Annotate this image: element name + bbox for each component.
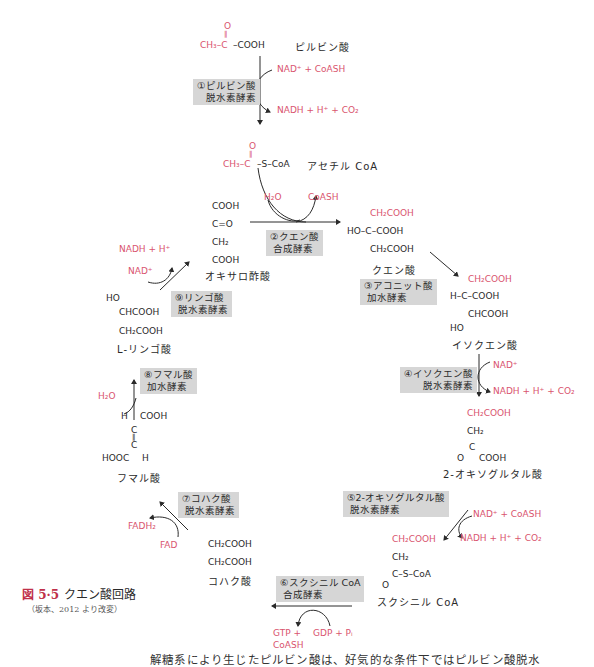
oxoglutarate-l3: C	[469, 442, 475, 453]
isocitrate-l1: CH₂COOH	[468, 274, 512, 285]
oxaloacetate-l2: C=O	[212, 219, 233, 230]
oxoglutarate-l5: COOH	[479, 453, 506, 464]
succinyl-coa-name: スクシニル CoA	[377, 594, 459, 609]
enzyme-4-line1: ④イソクエン酸	[404, 368, 473, 379]
pyruvate-black-part: –COOH	[233, 40, 265, 51]
acetyl-coa-name: アセチル CoA	[307, 158, 378, 173]
cofactor-s2-out: CoASH	[308, 192, 338, 203]
isocitrate-l2: H–C–COOH	[450, 291, 499, 302]
enzyme-9: ⑨リンゴ酸 脱水素酵素	[171, 291, 232, 317]
enzyme-1: ①ピルビン酸 脱水素酵素	[193, 79, 260, 105]
enzyme-5-line1: ⑤2-オキソグルタル酸	[347, 492, 445, 503]
enzyme-1-line2: 脱水素酵素	[206, 92, 256, 103]
enzyme-1-line1: ①ピルビン酸	[197, 80, 256, 91]
enzyme-2-line2: 合成酵素	[273, 243, 313, 254]
oxaloacetate-name: オキサロ酢酸	[205, 268, 271, 283]
enzyme-4-line2: 脱水素酵素	[423, 380, 473, 391]
citrate-l2: HO–C–COOH	[347, 226, 403, 237]
cofactor-s5-out: NADH + H⁺ + CO₂	[460, 533, 542, 544]
enzyme-3: ③アコニット酸 加水酵素	[360, 279, 437, 305]
oxoglutarate-l4: O	[457, 453, 464, 464]
enzyme-6-line1: ⑥スクシニル CoA	[280, 577, 360, 588]
enzyme-7: ⑦コハク酸 脱水素酵素	[178, 492, 239, 518]
cofactor-s6-out-2: CoASH	[273, 640, 303, 651]
enzyme-2: ②クエン酸 合成酵素	[266, 230, 323, 256]
oxaloacetate-l1: COOH	[212, 201, 239, 212]
succinate-l2: CH₂COOH	[208, 557, 252, 568]
oxoglutarate-l2: CH₂	[467, 426, 484, 437]
isocitrate-l4: HO	[450, 323, 464, 334]
enzyme-2-line1: ②クエン酸	[270, 231, 319, 242]
citrate-name: クエン酸	[372, 262, 416, 277]
enzyme-9-line1: ⑨リンゴ酸	[175, 292, 224, 303]
oxoglutarate-l1: CH₂COOH	[467, 408, 511, 419]
cofactor-s2-in: H₂O	[264, 192, 281, 203]
pyruvate-red-part: CH₃–C	[200, 40, 227, 51]
pyruvate-name: ピルビン酸	[295, 39, 350, 54]
malate-l3: CH₂COOH	[119, 326, 163, 337]
enzyme-7-line1: ⑦コハク酸	[182, 493, 231, 504]
enzyme-3-line2: 加水酵素	[367, 292, 407, 303]
enzyme-5-line2: 脱水素酵素	[350, 504, 400, 515]
figure-source: （坂本、2012 より改変）	[27, 603, 122, 614]
cofactor-s9-in: NAD⁺	[128, 266, 153, 277]
malate-name: L-リンゴ酸	[117, 341, 172, 356]
cofactor-s7-out: FADH₂	[128, 521, 156, 532]
oxaloacetate-l4: COOH	[212, 255, 239, 266]
enzyme-8-line1: ⑧フマル酸	[144, 369, 193, 380]
succinyl-coa-l2: CH₂	[392, 552, 409, 563]
cofactor-s8-in: H₂O	[98, 391, 115, 402]
succinyl-coa-l4: O	[382, 580, 389, 591]
malate-l1: HO	[106, 293, 120, 304]
oxaloacetate-l3: CH₂	[212, 237, 229, 248]
cofactor-s4-out: NADH + H⁺ + CO₂	[493, 386, 575, 397]
cofactor-s9-out: NADH + H⁺	[119, 244, 170, 255]
enzyme-6: ⑥スクシニル CoA 合成酵素	[276, 576, 364, 602]
succinate-l1: CH₂COOH	[208, 539, 252, 550]
fumarate-name: フマル酸	[117, 470, 161, 485]
oxoglutarate-name: 2-オキソグルタル酸	[443, 466, 543, 481]
malate-l2: CHCOOH	[119, 307, 159, 318]
enzyme-7-line2: 脱水素酵素	[185, 505, 235, 516]
isocitrate-name: イソクエン酸	[452, 337, 518, 352]
cofactor-s1-out: NADH + H⁺ + CO₂	[277, 105, 359, 116]
succinate-name: コハク酸	[208, 573, 252, 588]
citrate-l1: CH₂COOH	[370, 208, 414, 219]
fumarate-l3: C	[131, 440, 137, 451]
double-bond: ‖	[224, 29, 228, 40]
cofactor-s7-in: FAD	[160, 540, 177, 551]
cofactor-s1-in: NAD⁺ + CoASH	[277, 64, 345, 75]
cofactor-s4-in: NAD⁺	[493, 360, 518, 371]
acetyl-black-part: –S–CoA	[257, 159, 290, 170]
succinyl-coa-l1: CH₂COOH	[392, 534, 436, 545]
acetyl-red-part: CH₃–C	[223, 159, 250, 170]
isocitrate-l3: CHCOOH	[468, 309, 508, 320]
cofactor-s6-in: GDP + Pᵢ	[313, 628, 353, 639]
body-text-line: 解糖系により生じたピルビン酸は、好気的な条件下ではピルビン酸脱水	[150, 651, 540, 667]
enzyme-9-line2: 脱水素酵素	[178, 304, 228, 315]
fumarate-l1b: COOH	[140, 411, 167, 422]
enzyme-3-line1: ③アコニット酸	[364, 280, 433, 291]
enzyme-4: ④イソクエン酸 脱水素酵素	[400, 367, 477, 393]
figure-number: 図 5·5	[22, 585, 59, 602]
citrate-l3: CH₂COOH	[370, 244, 414, 255]
enzyme-5: ⑤2-オキソグルタル酸 脱水素酵素	[343, 491, 449, 517]
fumarate-l1a: H	[121, 411, 128, 422]
fumarate-l4b: H	[142, 453, 149, 464]
enzyme-8-line2: 加水酵素	[147, 381, 187, 392]
cofactor-s5-in: NAD⁺ + CoASH	[473, 509, 541, 520]
enzyme-6-line2: 合成酵素	[283, 589, 323, 600]
enzyme-8: ⑧フマル酸 加水酵素	[140, 368, 197, 394]
cofactor-s6-out-1: GTP +	[273, 628, 301, 639]
figure-title: クエン酸回路	[64, 585, 136, 602]
fumarate-l4a: HOOC	[102, 453, 129, 464]
succinyl-coa-l3: C–S–CoA	[392, 569, 431, 580]
